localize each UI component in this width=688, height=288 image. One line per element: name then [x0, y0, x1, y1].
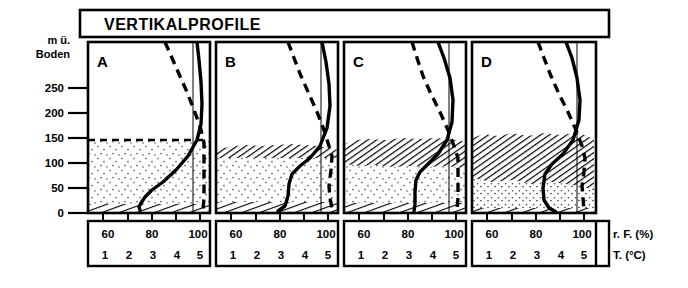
panel-A-t-tick-1: 1 — [102, 249, 109, 261]
panel-D-rh-tick-80: 80 — [530, 228, 543, 240]
panel-A-t-tick-3: 3 — [150, 249, 156, 261]
y-tick-100: 100 — [45, 157, 88, 169]
panel-B: B 60 80 100 1 2 3 4 5 — [216, 42, 338, 266]
y-axis-label-line2: Boden — [36, 48, 71, 60]
panel-A-t-tick-5: 5 — [197, 249, 204, 261]
y-tick-label-150: 150 — [45, 132, 64, 144]
panel-D: D 60 80 100 1 2 3 4 5 — [472, 42, 609, 266]
panel-A-t-tick-4: 4 — [174, 249, 181, 261]
y-tick-label-0: 0 — [58, 207, 64, 219]
panel-B-label: B — [225, 53, 236, 70]
humidity-unit-label: r. F. (%) — [613, 228, 653, 240]
panel-C-rh-tick-100: 100 — [444, 228, 463, 240]
panel-C-t-tick-2: 2 — [382, 249, 388, 261]
panel-D-cloud-cap — [472, 133, 594, 190]
panel-D-rh-tick-60: 60 — [486, 228, 499, 240]
panel-C-ground-hatch — [344, 203, 466, 213]
panel-A-label: A — [97, 53, 108, 70]
title-banner: VERTIKALPROFILE — [80, 10, 609, 37]
panel-B-t-tick-5: 5 — [325, 249, 332, 261]
y-tick-0: 0 — [58, 207, 88, 219]
panel-B-fog-layer — [216, 158, 338, 206]
panel-D-t-tick-4: 4 — [558, 249, 565, 261]
panel-A-rh-tick-60: 60 — [102, 228, 115, 240]
y-axis: m ü. Boden 250 200 150 100 50 0 — [36, 34, 88, 219]
panel-D-rh-tick-100: 100 — [572, 228, 591, 240]
panel-D-t-tick-5: 5 — [581, 249, 588, 261]
y-tick-label-100: 100 — [45, 157, 64, 169]
panel-C-cloud-cap — [344, 138, 466, 168]
panel-D-t-tick-3: 3 — [534, 249, 540, 261]
panel-C-rh-tick-60: 60 — [358, 228, 371, 240]
panel-A-rh-tick-100: 100 — [188, 228, 207, 240]
y-axis-label-line1: m ü. — [47, 34, 70, 46]
panel-A-t-tick-2: 2 — [126, 249, 132, 261]
vertical-profiles-figure: VERTIKALPROFILE m ü. Boden 250 200 150 1… — [0, 0, 688, 288]
panel-C-t-tick-3: 3 — [406, 249, 412, 261]
panel-D-label: D — [481, 53, 492, 70]
panel-C-fog-layer — [344, 164, 466, 209]
panel-B-t-tick-1: 1 — [230, 249, 237, 261]
panel-C: C 60 80 100 1 2 3 4 5 — [344, 42, 466, 266]
panel-D-t-tick-2: 2 — [510, 249, 516, 261]
figure-title: VERTIKALPROFILE — [104, 16, 261, 33]
panel-A-ground-hatch — [88, 204, 210, 213]
panel-B-rh-tick-100: 100 — [316, 228, 335, 240]
panel-B-t-tick-2: 2 — [254, 249, 260, 261]
y-tick-250: 250 — [45, 82, 88, 94]
panel-B-rh-tick-60: 60 — [230, 228, 243, 240]
panel-B-rh-tick-80: 80 — [274, 228, 287, 240]
y-tick-200: 200 — [45, 107, 88, 119]
panel-C-t-tick-1: 1 — [358, 249, 365, 261]
panel-C-label: C — [353, 53, 364, 70]
panel-B-t-tick-3: 3 — [278, 249, 284, 261]
y-tick-50: 50 — [51, 182, 88, 194]
y-tick-label-50: 50 — [51, 182, 64, 194]
panel-C-t-tick-5: 5 — [453, 249, 460, 261]
y-tick-label-250: 250 — [45, 82, 64, 94]
panel-A-rh-tick-80: 80 — [146, 228, 159, 240]
panel-C-rh-tick-80: 80 — [402, 228, 415, 240]
panel-D-t-tick-1: 1 — [486, 249, 493, 261]
panel-A: A 60 80 100 1 2 3 4 5 — [88, 42, 210, 266]
y-tick-150: 150 — [45, 132, 88, 144]
panel-B-t-tick-4: 4 — [302, 249, 309, 261]
figure-svg: VERTIKALPROFILE m ü. Boden 250 200 150 1… — [0, 0, 688, 288]
temperature-unit-label: T. (°C) — [613, 249, 646, 261]
panel-C-t-tick-4: 4 — [430, 249, 437, 261]
y-tick-label-200: 200 — [45, 107, 64, 119]
